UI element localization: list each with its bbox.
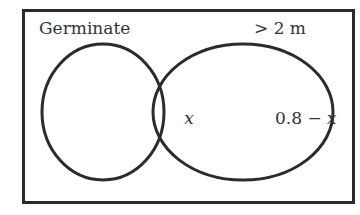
greater-than-2m-set-label: > 2 m — [254, 18, 306, 38]
venn-diagram: Germinate > 2 m x 0.8 − x — [0, 0, 360, 215]
right-only-region-label: 0.8 − x — [275, 108, 337, 128]
intersection-region-label: x — [184, 108, 194, 128]
germinate-set-ellipse — [42, 44, 164, 180]
germinate-set-label: Germinate — [39, 18, 130, 38]
universal-set-rectangle — [24, 11, 354, 203]
